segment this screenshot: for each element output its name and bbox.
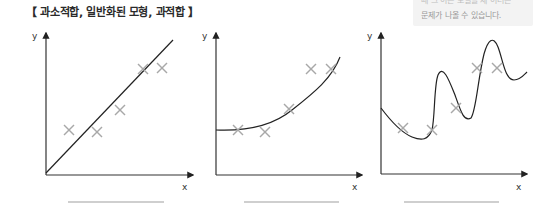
x-axis-label: x [182,182,188,192]
y-axis-label: y [202,31,208,41]
caption-placeholder-2 [244,201,339,203]
fitting-diagrams: y x y x y x [0,0,551,204]
y-axis-label: y [367,31,373,41]
caption-placeholder-1 [68,201,164,203]
data-points [233,64,336,137]
y-axis-label: y [32,31,38,41]
chart-good-fit: y x [202,31,362,192]
fit-curve [216,57,340,130]
x-axis-label: x [516,182,522,192]
chart-overfit: y x [367,31,527,192]
fit-line [46,40,173,173]
chart-underfit: y x [32,31,193,192]
fit-curve [381,40,527,139]
caption-placeholder-3 [404,201,499,203]
data-points [398,63,502,135]
x-axis-label: x [352,182,358,192]
